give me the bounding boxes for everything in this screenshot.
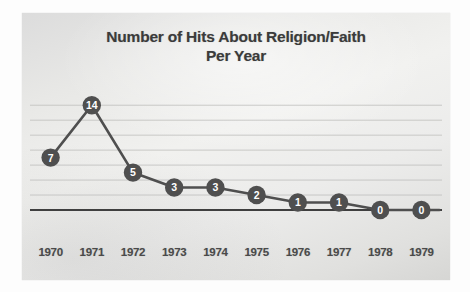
line-chart-svg: 71453321100 [30, 82, 442, 225]
x-axis-tick-labels: 1970197119721973197419751976197719781979 [30, 246, 442, 266]
gridlines-group [30, 105, 442, 195]
series-polyline [51, 105, 422, 210]
x-axis-tick-label: 1976 [277, 246, 318, 266]
data-point-label: 7 [48, 152, 54, 164]
plot-area: 71453321100 [30, 82, 442, 225]
series-line [51, 105, 440, 210]
data-point-label: 1 [336, 196, 342, 208]
data-point-label: 0 [418, 204, 424, 216]
x-axis-tick-label: 1972 [112, 246, 153, 266]
data-point-label: 1 [295, 196, 301, 208]
data-point-label: 5 [130, 166, 136, 178]
chart-title: Number of Hits About Religion/Faith Per … [22, 27, 450, 65]
data-point-label: 0 [377, 204, 383, 216]
photo-frame: Number of Hits About Religion/Faith Per … [0, 0, 470, 292]
chart-title-line-2: Per Year [22, 46, 450, 65]
x-axis-tick-label: 1974 [195, 246, 236, 266]
x-axis-tick-label: 1973 [154, 246, 195, 266]
x-axis-tick-label: 1977 [318, 246, 359, 266]
x-axis-tick-label: 1971 [71, 246, 112, 266]
chart-panel: Number of Hits About Religion/Faith Per … [22, 13, 450, 280]
data-point-markers: 71453321100 [41, 96, 430, 219]
x-axis-tick-label: 1978 [360, 246, 401, 266]
x-axis-tick-label: 1970 [30, 246, 71, 266]
x-axis-tick-label: 1975 [236, 246, 277, 266]
data-point-label: 2 [254, 189, 260, 201]
x-axis-tick-label: 1979 [401, 246, 442, 266]
data-point-label: 3 [212, 181, 218, 193]
data-point-label: 14 [86, 99, 98, 111]
data-point-label: 3 [171, 181, 177, 193]
chart-title-line-1: Number of Hits About Religion/Faith [22, 27, 450, 46]
